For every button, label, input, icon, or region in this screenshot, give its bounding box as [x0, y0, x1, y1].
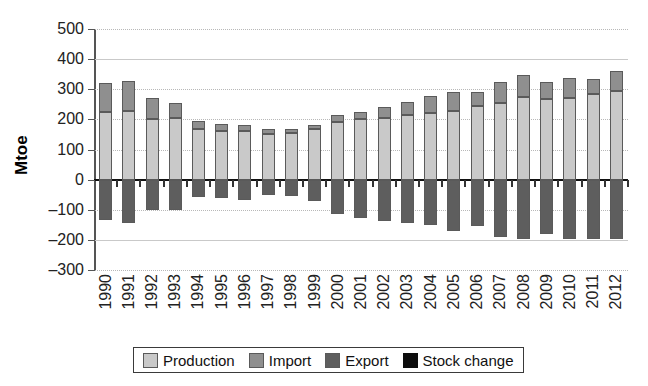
- bar-group: [471, 29, 484, 270]
- bar-series-container: [94, 29, 628, 270]
- bar-segment-production: [540, 99, 553, 180]
- bar-segment-production: [238, 131, 251, 180]
- x-minor-tick: [395, 180, 397, 187]
- bar-group: [354, 29, 367, 270]
- x-minor-tick: [627, 180, 629, 187]
- bar-segment-export: [285, 180, 298, 197]
- x-tick-label: 2003: [399, 274, 415, 310]
- bar-segment-export: [563, 180, 576, 239]
- bar-group: [378, 29, 391, 270]
- bar-segment-production: [447, 111, 460, 180]
- plot-area: 5004003002001000–100–200–300: [94, 29, 628, 270]
- bar-segment-export: [146, 180, 159, 210]
- x-minor-tick: [163, 180, 165, 187]
- bar-segment-export: [99, 180, 112, 221]
- bar-segment-import: [378, 107, 391, 118]
- x-tick-label: 2007: [492, 274, 508, 310]
- x-tick-label: 2004: [423, 274, 439, 310]
- x-minor-tick: [325, 180, 327, 187]
- bar-segment-import: [238, 125, 251, 130]
- bar-segment-import: [308, 125, 321, 129]
- bar-segment-import: [471, 92, 484, 106]
- bar-group: [401, 29, 414, 270]
- x-tick-label: 1995: [214, 274, 230, 310]
- bar-segment-production: [471, 106, 484, 179]
- x-minor-tick: [232, 180, 234, 187]
- x-minor-tick: [418, 180, 420, 187]
- legend-swatch-export-icon: [325, 353, 340, 368]
- x-minor-tick: [511, 180, 513, 187]
- chart-legend: ProductionImportExportStock change: [133, 347, 524, 373]
- bar-segment-import: [99, 83, 112, 112]
- x-minor-tick: [279, 180, 281, 187]
- x-minor-tick: [488, 180, 490, 187]
- bar-group: [308, 29, 321, 270]
- bar-segment-import: [587, 79, 600, 93]
- bar-segment-production: [308, 129, 321, 180]
- bar-segment-production: [563, 98, 576, 180]
- x-tick-label: 1996: [237, 274, 253, 310]
- bar-segment-production: [401, 115, 414, 180]
- x-tick-label: 1994: [190, 274, 206, 310]
- bar-segment-import: [354, 112, 367, 120]
- x-tick-label: 1993: [167, 274, 183, 310]
- x-tick-label: 2001: [353, 274, 369, 310]
- bar-group: [99, 29, 112, 270]
- x-tick-label: 1997: [260, 274, 276, 310]
- legend-label: Export: [345, 352, 388, 369]
- bar-segment-production: [494, 103, 507, 180]
- bar-segment-import: [494, 82, 507, 102]
- x-tick-label: 2011: [585, 274, 601, 308]
- bar-group: [122, 29, 135, 270]
- legend-item[interactable]: Export: [325, 352, 388, 369]
- bar-group: [424, 29, 437, 270]
- x-minor-tick: [348, 180, 350, 187]
- y-tick-label: –300: [24, 261, 84, 279]
- bar-segment-import: [424, 96, 437, 113]
- bar-segment-export: [262, 180, 275, 196]
- bar-segment-production: [99, 112, 112, 180]
- bar-segment-production: [587, 94, 600, 180]
- bar-segment-production: [122, 111, 135, 179]
- bar-segment-import: [192, 121, 205, 129]
- bar-segment-export: [238, 180, 251, 200]
- bar-group: [262, 29, 275, 270]
- bar-segment-export: [331, 180, 344, 215]
- x-minor-tick: [534, 180, 536, 187]
- bar-segment-production: [262, 134, 275, 180]
- bar-segment-production: [285, 133, 298, 180]
- bar-segment-import: [517, 75, 530, 97]
- legend-item[interactable]: Stock change: [403, 352, 514, 369]
- x-tick-label: 2008: [516, 274, 532, 310]
- bar-group: [494, 29, 507, 270]
- legend-item[interactable]: Import: [249, 352, 312, 369]
- y-tick-label: 200: [24, 110, 84, 128]
- x-minor-tick: [464, 180, 466, 187]
- bar-segment-import: [262, 129, 275, 134]
- x-tick-label: 1990: [98, 274, 114, 310]
- legend-label: Production: [163, 352, 235, 369]
- bar-segment-export: [540, 180, 553, 235]
- legend-label: Import: [269, 352, 312, 369]
- bar-segment-import: [540, 82, 553, 99]
- x-tick-label: 1992: [144, 274, 160, 310]
- bar-segment-export: [424, 180, 437, 225]
- x-tick-label: 2006: [469, 274, 485, 310]
- x-tick-label: 2010: [562, 274, 578, 310]
- legend-swatch-stock-icon: [403, 353, 418, 368]
- legend-item[interactable]: Production: [143, 352, 235, 369]
- x-minor-tick: [139, 180, 141, 187]
- x-minor-tick: [256, 180, 258, 187]
- bar-segment-export: [192, 180, 205, 197]
- chart-figure: Mtoe 5004003002001000–100–200–300 199019…: [0, 0, 648, 386]
- bar-segment-export: [354, 180, 367, 219]
- bar-group: [215, 29, 228, 270]
- x-minor-tick: [372, 180, 374, 187]
- x-axis-labels: 1990199119921993199419951996199719981999…: [94, 274, 628, 336]
- bar-group: [563, 29, 576, 270]
- bar-segment-export: [169, 180, 182, 210]
- y-tick-label: 400: [24, 50, 84, 68]
- bar-group: [610, 29, 623, 270]
- bar-segment-production: [424, 113, 437, 180]
- gridline: [94, 270, 628, 272]
